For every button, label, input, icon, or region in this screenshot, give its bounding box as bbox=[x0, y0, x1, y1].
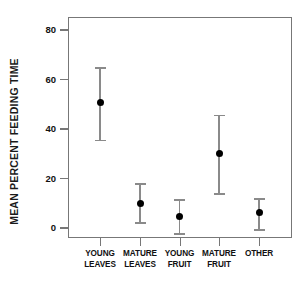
x-tick-mark bbox=[100, 238, 101, 246]
errorbar-cap-lower bbox=[95, 140, 106, 142]
errorbar-cap-lower bbox=[254, 229, 265, 231]
y-tick-label: 20 bbox=[45, 173, 56, 184]
y-tick-mark bbox=[60, 227, 68, 228]
datapoint-marker bbox=[256, 209, 263, 216]
y-axis-title: MEAN PERCENT FEEDING TIME bbox=[0, 0, 34, 283]
x-tick-label-line: FRUIT bbox=[181, 260, 257, 271]
y-tick-label: 0 bbox=[51, 222, 56, 233]
x-tick-mark bbox=[140, 238, 141, 246]
y-tick-mark bbox=[60, 79, 68, 80]
datapoint-marker bbox=[97, 99, 104, 106]
errorbar-cap-lower bbox=[174, 233, 185, 235]
chart-container: MEAN PERCENT FEEDING TIME 020406080 YOUN… bbox=[0, 0, 306, 283]
errorbar-cap-lower bbox=[214, 193, 225, 195]
errorbar-cap-upper bbox=[254, 198, 265, 200]
y-tick-label: 60 bbox=[45, 74, 56, 85]
x-tick-mark bbox=[180, 238, 181, 246]
datapoint-marker bbox=[176, 213, 183, 220]
y-tick-mark bbox=[60, 29, 68, 30]
y-tick-label: 80 bbox=[45, 24, 56, 35]
x-tick-mark bbox=[219, 238, 220, 246]
y-tick-mark bbox=[60, 178, 68, 179]
x-tick-label-line: OTHER bbox=[221, 249, 297, 260]
errorbar-cap-lower bbox=[135, 222, 146, 224]
x-tick-label-4: OTHER bbox=[221, 249, 297, 260]
errorbar-cap-upper bbox=[95, 67, 106, 69]
y-tick-label: 40 bbox=[45, 123, 56, 134]
datapoint-marker bbox=[137, 200, 144, 207]
errorbar-cap-upper bbox=[174, 199, 185, 201]
errorbar-cap-upper bbox=[214, 115, 225, 117]
y-tick-mark bbox=[60, 128, 68, 129]
errorbar-cap-upper bbox=[135, 183, 146, 185]
x-tick-mark bbox=[259, 238, 260, 246]
